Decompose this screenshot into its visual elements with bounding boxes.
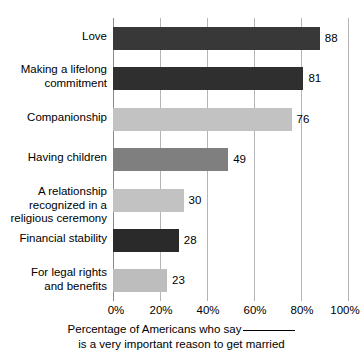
xtick-label-40: 40% — [196, 303, 219, 317]
xtick-label-60: 60% — [243, 303, 266, 317]
x-axis-ticks: 0% 20% 40% 60% 80% 100% — [0, 303, 363, 319]
x-axis-caption: Percentage of Americans who say is a ver… — [0, 322, 363, 352]
bar-row: 81 — [113, 58, 348, 98]
xtick-label-0: 0% — [108, 303, 125, 317]
category-label-having-children: Having children — [0, 151, 107, 165]
caption-line-1: Percentage of Americans who say — [0, 322, 363, 337]
xtick-label-80: 80% — [290, 303, 313, 317]
bar-value-for-legal-rights-and-benefits: 23 — [167, 269, 185, 292]
bar-chart: Love Making a lifelong commitment Compan… — [0, 0, 363, 363]
bar-row: 23 — [113, 260, 348, 300]
bar-value-financial-stability: 28 — [179, 229, 197, 252]
bar-a-relationship-recognized-in-a-religious-ceremony[interactable] — [113, 189, 184, 212]
bar-making-a-lifelong-commitment[interactable] — [113, 67, 303, 90]
bar-love[interactable] — [113, 27, 320, 50]
category-label-a-relationship-recognized-in-a-religious-ceremony: A relationship recognized in a religious… — [0, 185, 107, 226]
bar-value-love: 88 — [320, 27, 338, 50]
bar-value-having-children: 49 — [228, 148, 246, 171]
bar-value-a-relationship-recognized-in-a-religious-ceremony: 30 — [184, 189, 202, 212]
bar-financial-stability[interactable] — [113, 229, 179, 252]
bar-row: 30 — [113, 180, 348, 220]
category-label-for-legal-rights-and-benefits: For legal rights and benefits — [0, 266, 107, 293]
bar-for-legal-rights-and-benefits[interactable] — [113, 269, 167, 292]
bar-companionship[interactable] — [113, 108, 292, 131]
bar-row: 49 — [113, 139, 348, 179]
gridline-100 — [348, 18, 349, 301]
category-label-making-a-lifelong-commitment: Making a lifelong commitment — [0, 63, 107, 90]
bar-value-companionship: 76 — [292, 108, 310, 131]
bar-row: 88 — [113, 18, 348, 58]
category-label-companionship: Companionship — [0, 111, 107, 125]
xtick-label-20: 20% — [149, 303, 172, 317]
bar-row: 28 — [113, 220, 348, 260]
caption-line-1-text: Percentage of Americans who say — [68, 323, 242, 335]
xtick-label-100: 100% — [330, 303, 359, 317]
caption-blank-rule — [243, 330, 295, 331]
bar-value-making-a-lifelong-commitment: 81 — [303, 67, 321, 90]
caption-line-2: is a very important reason to get marrie… — [0, 337, 363, 352]
plot-area: 88 81 76 49 30 28 23 — [113, 18, 348, 301]
category-label-love: Love — [0, 30, 107, 44]
category-label-financial-stability: Financial stability — [0, 232, 107, 246]
bar-having-children[interactable] — [113, 148, 228, 171]
bar-row: 76 — [113, 99, 348, 139]
